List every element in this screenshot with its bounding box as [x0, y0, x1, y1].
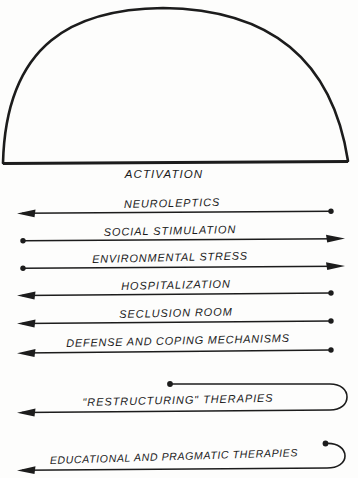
arrowhead-right-icon — [326, 262, 345, 270]
arrowhead-left-icon — [17, 320, 36, 328]
arrowhead-left-icon — [17, 292, 36, 300]
origin-dot-icon — [167, 381, 173, 387]
origin-dot-icon — [328, 318, 333, 323]
origin-dot-icon — [328, 347, 333, 352]
arrow-shaft — [23, 239, 338, 241]
arrowhead-left-icon — [17, 466, 36, 474]
activation-curve — [3, 8, 348, 163]
origin-dot-icon — [328, 290, 333, 295]
activation-curve-group — [3, 8, 348, 164]
row-label-neuroleptics: NEUROLEPTICS — [124, 196, 221, 210]
arrow-row-hospitalization — [17, 290, 334, 299]
origin-dot-icon — [323, 441, 329, 447]
arrow-shaft — [23, 266, 338, 268]
arrow-shaft — [22, 350, 331, 353]
arrowhead-left-icon — [17, 209, 36, 217]
arrow-shaft — [22, 211, 331, 213]
activation-label: ACTIVATION — [125, 168, 204, 180]
arrow-row-seclusion-room — [17, 318, 334, 327]
origin-dot-icon — [20, 266, 25, 271]
arrowhead-right-icon — [326, 235, 345, 243]
origin-dot-icon — [20, 238, 25, 243]
arrow-row-neuroleptics — [17, 209, 334, 218]
activation-baseline — [3, 162, 348, 164]
arrowhead-left-icon — [17, 349, 36, 357]
arrowhead-left-icon — [17, 409, 36, 417]
arrow-shaft — [22, 321, 331, 323]
activation-diagram: ACTIVATION NEUROLEPTICS SOCIAL STIMULATI… — [0, 0, 358, 478]
arrow-row-defense-coping — [17, 347, 334, 357]
arrow-row-environmental-stress — [20, 262, 345, 271]
diagram-canvas — [0, 0, 358, 478]
row-label-hospitalization: HOSPITALIZATION — [121, 278, 231, 292]
origin-dot-icon — [328, 209, 333, 214]
arrow-shaft — [22, 293, 331, 295]
